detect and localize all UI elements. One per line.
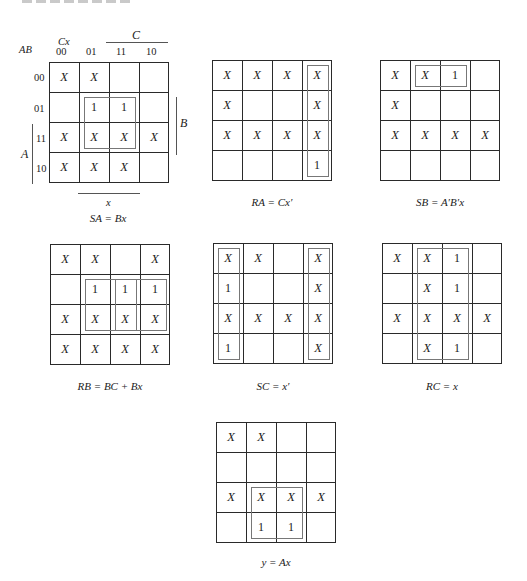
kmap-cell: X [440,120,470,150]
kmap-cell: X [272,120,302,150]
kmap-cell: 1 [140,274,170,304]
kmap-cell [470,60,500,90]
kmap-cell: X [412,243,442,273]
kmap-caption: SB = A′B′x [400,196,480,208]
kmap-cell [243,333,273,363]
karnaugh-map-7: XXXXXX11 [216,422,336,543]
kmap-cell: X [80,304,110,334]
kmap-cell: 1 [80,274,110,304]
kmap-cell: 1 [276,512,306,542]
kmap-cell: X [49,122,79,152]
kmap-cell: 1 [213,333,243,363]
col-code-0: 00 [56,46,67,57]
c-bracket [106,42,168,43]
kmap-cell [276,452,306,482]
kmap-cell: 1 [110,274,140,304]
kmap-cell: X [380,60,410,90]
kmap-cell: X [80,334,110,364]
karnaugh-map-5: XXX1XXXXX1X [213,243,333,364]
kmap-cell: X [472,303,502,333]
kmap-cell: X [276,482,306,512]
kmap-cell [306,512,336,542]
karnaugh-map-3: XX1XXXXX [380,60,500,181]
kmap-caption: RC = x [402,380,482,392]
kmap-cell: X [216,482,246,512]
kmap-cell [410,150,440,180]
kmap-cell: X [140,244,170,274]
kmap-cell: 1 [442,243,472,273]
kmap-cell [472,243,502,273]
kmap-caption: RB = BC + Bx [70,380,150,392]
row-code-0: 00 [34,72,45,83]
kmap-cell [139,152,169,182]
kmap-cell [212,150,242,180]
kmap-cell: X [242,60,272,90]
kmap-cell [272,150,302,180]
kmap-cell [273,273,303,303]
karnaugh-map-1: XX11XXXXXXX [49,62,169,183]
kmap-cell: X [242,120,272,150]
kmap-cell: X [140,304,170,334]
kmap-cell [246,452,276,482]
kmap-cell: X [272,60,302,90]
col-code-3: 10 [146,46,157,57]
kmap-cell: X [50,304,80,334]
kmap-cell [470,150,500,180]
kmap-cell: X [246,422,276,452]
kmap-cell: X [50,334,80,364]
kmap-caption: SC = x′ [233,380,313,392]
kmap-cell: X [303,273,333,303]
kmap-cell: 1 [442,273,472,303]
kmap-cell: X [302,90,332,120]
kmap-cell [110,244,140,274]
kmap-cell: X [273,303,303,333]
x-label: x [106,197,111,208]
kmap-cell [273,333,303,363]
kmap-cell: X [212,90,242,120]
kmap-cell: X [412,333,442,363]
kmap-cell: X [380,90,410,120]
kmap-cell: 1 [302,150,332,180]
kmap-cell: X [49,62,79,92]
kmap-caption: SA = Bx [68,212,148,224]
kmap-cell [440,150,470,180]
kmap-cell [139,62,169,92]
row-code-3: 10 [36,163,47,174]
kmap-cell: X [412,273,442,303]
kmap-cell [49,92,79,122]
kmap-cell: X [110,334,140,364]
kmap-cell [242,90,272,120]
kmap-cell [139,92,169,122]
kmap-cell: X [303,303,333,333]
kmap-cell: X [109,122,139,152]
kmap-cell: X [303,243,333,273]
kmap-cell: X [110,304,140,334]
col-code-1: 01 [86,46,97,57]
kmap-cell: X [212,120,242,150]
kmap-cell [380,150,410,180]
kmap-cell [109,62,139,92]
kmap-cell [472,273,502,303]
kmap-cell [306,422,336,452]
b-label: B [180,116,187,131]
kmap-cell: X [49,152,79,182]
kmap-cell: X [243,243,273,273]
kmap-cell [50,274,80,304]
kmap-cell: X [140,334,170,364]
kmap-cell [272,90,302,120]
kmap-cell: X [139,122,169,152]
kmap-cell: X [410,120,440,150]
kmap-cell: X [213,243,243,273]
kmap-cell: X [79,152,109,182]
kmap-cell: X [382,303,412,333]
kmap-cell: X [243,303,273,333]
kmap-cell: X [216,422,246,452]
kmap-cell [243,273,273,303]
kmap-cell: X [470,120,500,150]
row-code-1: 01 [34,103,45,114]
b-bracket [176,97,177,155]
kmap-cell: 1 [213,273,243,303]
kmap-cell [242,150,272,180]
kmap-cell: X [79,62,109,92]
a-bracket [32,124,33,184]
